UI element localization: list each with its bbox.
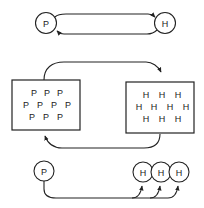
arrow-left-box-to-right-box <box>44 62 161 80</box>
node-label: H <box>158 168 165 178</box>
h-glyph: H <box>136 102 143 112</box>
arrow-p-to-h <box>55 14 155 17</box>
node-h-bottom-3: H <box>169 162 189 182</box>
arrow-p-to-h3 <box>150 186 178 198</box>
h-glyph: H <box>151 102 158 112</box>
group-box-h: H H H H H H H H H H <box>126 82 194 133</box>
top-panel: P H <box>36 13 176 35</box>
node-label: H <box>140 168 147 178</box>
interaction-diagram: P H P P P P P P P P P P H H H H <box>0 0 204 208</box>
p-glyph: P <box>43 112 49 122</box>
h-glyph: H <box>159 90 166 100</box>
p-glyph: P <box>44 88 50 98</box>
node-h-top: H <box>155 13 176 34</box>
node-h-bottom-2: H <box>151 162 171 182</box>
h-glyph: H <box>167 102 174 112</box>
h-glyph: H <box>143 114 150 124</box>
h-glyph: H <box>183 102 190 112</box>
p-glyph: P <box>57 88 63 98</box>
p-glyph: P <box>57 112 63 122</box>
arrow-p-to-h2 <box>132 186 160 198</box>
arrow-p-to-h1 <box>44 181 142 198</box>
node-h-bottom-1: H <box>133 162 153 182</box>
node-label: H <box>162 19 169 29</box>
node-label: H <box>176 168 183 178</box>
h-glyph: H <box>175 90 182 100</box>
h-glyph: H <box>143 90 150 100</box>
node-p-top: P <box>36 13 57 34</box>
p-glyph: P <box>65 100 71 110</box>
p-glyph: P <box>37 100 43 110</box>
arrow-right-box-to-left-box <box>45 134 160 148</box>
node-label: P <box>43 19 49 29</box>
group-box-p: P P P P P P P P P P <box>12 80 80 130</box>
node-p-bottom: P <box>34 161 54 181</box>
h-glyph: H <box>159 114 166 124</box>
middle-panel: P P P P P P P P P P H H H H H H H H H H <box>12 62 194 148</box>
p-glyph: P <box>23 100 29 110</box>
p-glyph: P <box>29 112 35 122</box>
h-glyph: H <box>175 114 182 124</box>
arrow-h-to-p <box>57 30 157 34</box>
node-label: P <box>41 167 47 177</box>
p-glyph: P <box>51 100 57 110</box>
bottom-panel: P H H H <box>34 161 189 198</box>
p-glyph: P <box>31 88 37 98</box>
